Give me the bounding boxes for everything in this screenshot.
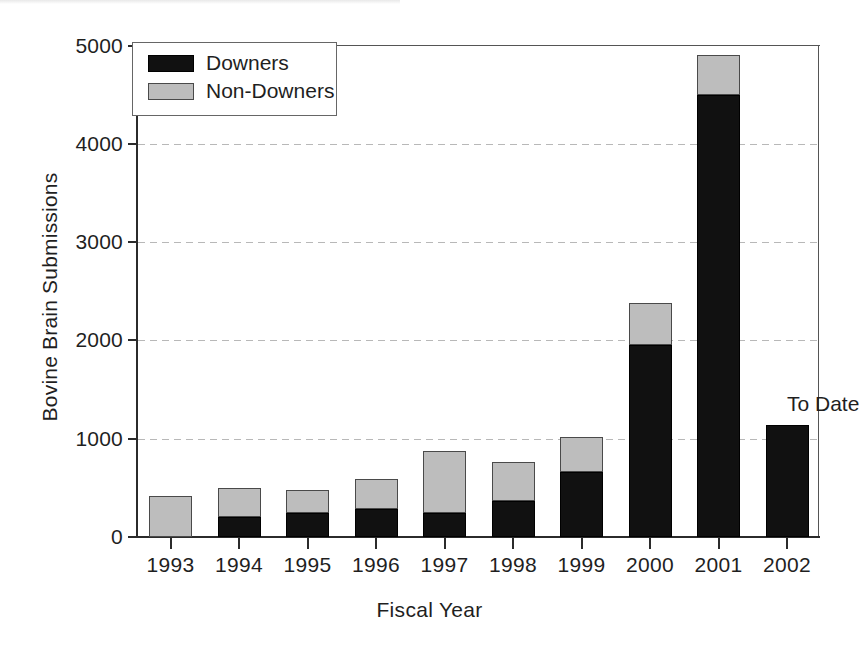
bar-chart: 010002000300040005000 199319941995199619… bbox=[0, 0, 859, 647]
bar-group bbox=[355, 0, 398, 537]
y-axis-tick bbox=[128, 143, 137, 145]
y-axis-tick bbox=[128, 339, 137, 341]
legend-label-non-downers: Non-Downers bbox=[206, 79, 334, 103]
bar-segment-non-downers bbox=[629, 303, 672, 345]
x-axis-tick bbox=[512, 538, 514, 549]
bar-segment-non-downers bbox=[218, 488, 261, 517]
bar-segment-downers bbox=[355, 509, 398, 537]
x-axis-tick bbox=[307, 538, 309, 549]
y-axis-label: 5000 bbox=[45, 35, 123, 56]
y-axis-tick bbox=[128, 241, 137, 243]
x-axis-tick bbox=[649, 538, 651, 549]
x-axis-tick bbox=[786, 538, 788, 549]
bar-segment-non-downers bbox=[149, 496, 192, 537]
x-axis-tick bbox=[581, 538, 583, 549]
bar-segment-downers bbox=[492, 501, 535, 537]
y-axis-title: Bovine Brain Submissions bbox=[38, 87, 62, 507]
y-axis-tick bbox=[128, 536, 137, 538]
x-axis-tick bbox=[718, 538, 720, 549]
y-axis-line bbox=[136, 45, 138, 538]
bar-segment-downers bbox=[286, 513, 329, 537]
x-axis-label: 2002 bbox=[742, 553, 832, 577]
bar-segment-non-downers bbox=[286, 490, 329, 514]
bar-segment-non-downers bbox=[560, 437, 603, 472]
legend: Downers Non-Downers bbox=[132, 42, 337, 116]
plot-frame-right bbox=[818, 45, 819, 538]
bar-segment-non-downers bbox=[492, 462, 535, 501]
bar-group bbox=[697, 0, 740, 537]
bar-segment-non-downers bbox=[697, 55, 740, 94]
bar-segment-downers bbox=[423, 513, 466, 537]
bar-segment-downers bbox=[629, 345, 672, 537]
scan-artifact-strip bbox=[0, 0, 400, 4]
x-axis-tick bbox=[444, 538, 446, 549]
bar-group bbox=[766, 0, 809, 537]
bar-segment-downers bbox=[766, 425, 809, 537]
x-axis-tick bbox=[238, 538, 240, 549]
bar-segment-non-downers bbox=[423, 451, 466, 513]
bar-segment-downers bbox=[218, 517, 261, 537]
y-axis-tick bbox=[128, 438, 137, 440]
swatch-non-downers-icon bbox=[148, 83, 194, 100]
bar-group bbox=[560, 0, 603, 537]
bar-group bbox=[629, 0, 672, 537]
x-axis-tick bbox=[375, 538, 377, 549]
y-axis-label: 0 bbox=[45, 526, 123, 547]
legend-label-downers: Downers bbox=[206, 51, 289, 75]
bar-group bbox=[492, 0, 535, 537]
bar-segment-downers bbox=[697, 95, 740, 537]
bar-group bbox=[423, 0, 466, 537]
bar-segment-non-downers bbox=[355, 479, 398, 510]
x-axis-tick bbox=[170, 538, 172, 549]
x-axis-title: Fiscal Year bbox=[0, 598, 859, 622]
swatch-downers-icon bbox=[148, 55, 194, 72]
bar-segment-downers bbox=[560, 472, 603, 537]
